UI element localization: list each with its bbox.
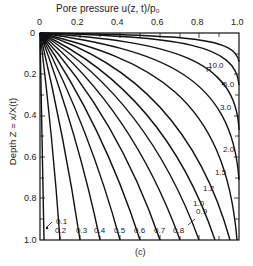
curve-label: 0.7 [154,226,165,235]
curve-label: 0.5 [114,226,125,235]
curve-label: 0.9 [196,207,207,216]
curve-label: 1.5 [215,168,226,177]
curve-label: 0.2 [55,226,66,235]
curve-label: 0.3 [76,226,87,235]
curve-r-0.9 [40,33,199,240]
curve-label: 0.6 [134,226,145,235]
chart-plot [0,0,253,266]
curve-label: 1.2 [203,184,214,193]
curve-label-R: R [206,65,212,74]
curve-label: 5.0 [223,80,234,89]
curve-r-0.8 [40,33,180,240]
curve-label: 3.0 [220,103,231,112]
curve-label: 0.8 [173,226,184,235]
label-pointer-dot [46,227,48,229]
r-pointer [213,73,222,83]
figure-caption: (c) [135,247,146,257]
curve-label: 0.1 [56,217,67,226]
y-ticks [40,54,239,219]
label-pointer [47,222,52,227]
curve-label: 0.4 [94,226,105,235]
curve-r-0.4 [40,33,100,240]
curve-label: 2.0 [223,145,234,154]
